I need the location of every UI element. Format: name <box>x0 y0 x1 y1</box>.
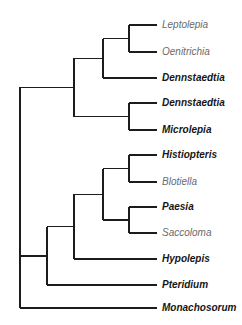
taxon-label-paesia: Paesia <box>162 201 194 212</box>
taxon-label-pteridium: Pteridium <box>162 279 208 290</box>
taxon-label-leptolepia: Leptolepia <box>162 19 209 30</box>
taxon-label-dennstaedtia: Dennstaedtia <box>162 72 225 83</box>
taxon-label-saccoloma: Saccoloma <box>162 227 212 238</box>
taxon-label-blotiella: Blotiella <box>162 176 197 187</box>
taxon-label-dennstaedtia: Dennstaedtia <box>162 97 225 108</box>
taxon-label-histiopteris: Histiopteris <box>162 149 217 160</box>
phylogenetic-tree: LeptolepiaOenitrichiaDennstaedtiaDennsta… <box>0 0 242 325</box>
taxon-label-microlepia: Microlepia <box>162 124 212 135</box>
taxon-label-oenitrichia: Oenitrichia <box>162 46 210 57</box>
taxon-label-monachosorum: Monachosorum <box>162 302 237 313</box>
taxon-label-hypolepis: Hypolepis <box>162 253 210 264</box>
